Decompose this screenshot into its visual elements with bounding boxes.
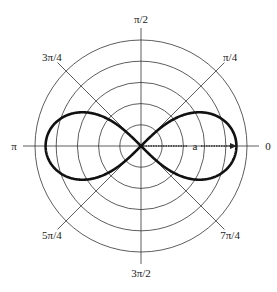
label-angle-0: 0 [265,140,271,152]
label-angle-3pi-4: 3π/4 [42,51,62,63]
label-angle-pi-2: π/2 [134,13,148,25]
label-angle-3pi-2: 3π/2 [131,267,151,279]
label-angle-pi-4: π/4 [223,51,238,63]
radius-label: a [193,140,198,152]
label-angle-7pi-4: 7π/4 [220,229,240,241]
label-angle-5pi-4: 5π/4 [42,229,62,241]
polar-diagram: a 0π/4π/23π/4π5π/43π/27π/4 [0,0,277,292]
label-angle-pi: π [11,140,17,152]
